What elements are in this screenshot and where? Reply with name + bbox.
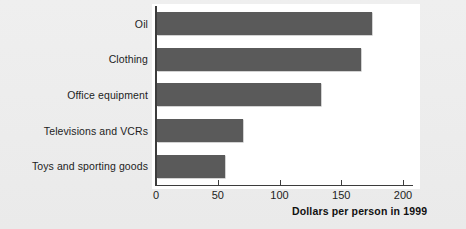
- category-label: Televisions and VCRs: [5, 125, 155, 137]
- bar-chart-figure: OilClothingOffice equipmentTelevisions a…: [0, 0, 466, 229]
- x-tick-label: 50: [212, 189, 224, 201]
- x-axis-line: [155, 185, 413, 186]
- bar-row: [157, 113, 419, 149]
- x-axis-title: Dollars per person in 1999: [292, 205, 427, 217]
- category-label-row: Oil: [0, 6, 155, 42]
- bar: [157, 155, 225, 178]
- x-tick-label: 150: [332, 189, 350, 201]
- x-tick-mark: [280, 180, 281, 186]
- category-label: Toys and sporting goods: [5, 160, 155, 172]
- bar-row: [157, 77, 419, 113]
- category-label: Clothing: [5, 53, 155, 65]
- category-label: Office equipment: [5, 89, 155, 101]
- category-label-row: Toys and sporting goods: [0, 148, 155, 184]
- bar-row: [157, 42, 419, 78]
- x-tick-label: 200: [394, 189, 412, 201]
- bar-row: [157, 6, 419, 42]
- category-axis-labels: OilClothingOffice equipmentTelevisions a…: [0, 6, 155, 185]
- x-tick-label: 0: [153, 189, 159, 201]
- bar-row: [157, 148, 419, 184]
- category-label-row: Televisions and VCRs: [0, 113, 155, 149]
- x-tick-label: 100: [270, 189, 288, 201]
- x-tick-mark: [403, 180, 404, 186]
- x-tick-mark: [218, 180, 219, 186]
- bar: [157, 48, 361, 71]
- category-label: Oil: [5, 18, 155, 30]
- bar: [157, 83, 321, 106]
- bars-container: [157, 6, 419, 185]
- bar: [157, 12, 372, 35]
- y-axis-line: [155, 6, 157, 186]
- category-label-row: Clothing: [0, 42, 155, 78]
- x-tick-mark: [341, 180, 342, 186]
- x-tick-mark: [156, 180, 157, 186]
- bar: [157, 119, 243, 142]
- category-label-row: Office equipment: [0, 77, 155, 113]
